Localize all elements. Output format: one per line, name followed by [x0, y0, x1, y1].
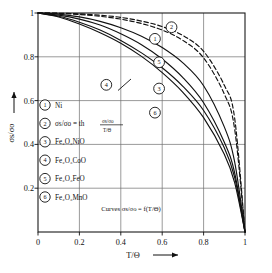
curve-marker-5: 5 — [154, 57, 165, 68]
y-tick-label-3: 0.8 — [24, 53, 34, 62]
curve-marker-3: 3 — [154, 83, 165, 94]
x-axis-title: T/Θ — [126, 251, 140, 260]
marker-label: 3 — [158, 85, 161, 92]
legend-marker-number: 1 — [43, 101, 46, 108]
magnetization-vs-temperature-chart: 215436 00.20.40.60.81 0.20.40.60.81 T/Θ … — [0, 0, 272, 273]
legend-item-4: 4Fe₂O₃CoO — [40, 155, 86, 165]
formula-numerator: σs/σo — [102, 118, 114, 124]
y-axis-title: σs/σo — [7, 124, 16, 143]
legend-item-3: 3Fe₂O₃NiO — [40, 137, 85, 147]
legend-item-label: Fe₂O₃NiO — [55, 138, 85, 146]
x-tick-label-0: 0 — [36, 238, 40, 247]
legend-item-label: σs/σo = th — [55, 120, 85, 128]
legend-item-label: Fe₂O₃MnO — [55, 194, 88, 202]
legend-marker-number: 6 — [43, 193, 46, 200]
curve-marker-6: 6 — [150, 107, 161, 118]
formula-denominator: T/Θ — [103, 127, 112, 133]
legend-marker-number: 4 — [43, 156, 46, 163]
legend-marker-number: 3 — [43, 138, 46, 145]
marker-label: 5 — [158, 58, 161, 65]
legend-marker-number: 5 — [43, 175, 46, 182]
legend-item-label: Fe₂O₃FeO — [55, 175, 85, 183]
curve-marker-2: 2 — [166, 22, 177, 33]
chart-caption: Curves σs/σo = f(T/Θ) — [101, 205, 160, 213]
y-tick-label-4: 1 — [30, 9, 34, 18]
marker-label: 2 — [170, 23, 173, 30]
x-tick-label-5: 1 — [243, 238, 247, 247]
legend-item-label: Fe₂O₃CoO — [55, 157, 86, 165]
x-tick-label-3: 0.6 — [157, 238, 167, 247]
y-tick-label-2: 0.6 — [24, 97, 34, 106]
marker-label: 6 — [153, 109, 156, 116]
y-tick-label-1: 0.4 — [24, 140, 34, 149]
curve-marker-4: 4 — [101, 79, 112, 90]
x-tick-label-4: 0.8 — [198, 238, 208, 247]
chart-figure: 215436 00.20.40.60.81 0.20.40.60.81 T/Θ … — [0, 0, 272, 273]
legend-marker-number: 2 — [43, 120, 46, 127]
x-tick-label-2: 0.4 — [116, 238, 126, 247]
x-tick-label-1: 0.2 — [74, 238, 84, 247]
legend-item-6: 6Fe₂O₃MnO — [40, 192, 88, 202]
marker-label: 4 — [105, 81, 108, 88]
legend-item-label: Ni — [55, 102, 62, 110]
curve-marker-1: 1 — [150, 33, 161, 44]
legend-item-5: 5Fe₂O₃FeO — [40, 173, 85, 183]
y-tick-label-0: 0.2 — [24, 184, 34, 193]
legend-item-2: 2σs/σo = th — [40, 118, 85, 128]
marker-label: 1 — [153, 35, 156, 42]
